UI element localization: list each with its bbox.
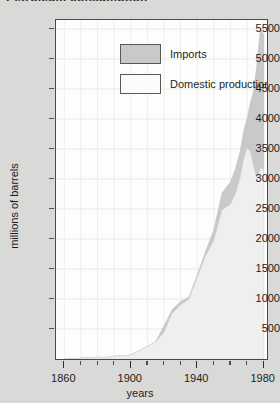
x-tick-label: 1980 [250,372,274,384]
x-tick-mark-minor [113,361,114,365]
y-tick-mark [49,28,54,29]
y-tick-label: 3000 [230,172,280,184]
x-tick-mark-minor [246,361,247,365]
x-tick-mark [196,361,197,368]
y-tick-mark [49,58,54,59]
y-tick-label: 2500 [230,202,280,214]
imports-swatch [120,44,161,64]
y-tick-mark [49,88,54,89]
chart-title: Petroleum consumption [6,0,148,1]
y-tick-label: 2000 [230,232,280,244]
x-tick-mark-minor [163,361,164,365]
x-tick-mark-minor [97,361,98,365]
domestic-swatch [120,74,161,94]
y-tick-label: 4000 [230,112,280,124]
y-tick-label: 3500 [230,142,280,154]
x-axis-title: years [0,387,280,399]
plot-area: Imports Domestic production [55,19,268,360]
x-tick-mark-minor [80,361,81,365]
y-tick-mark [49,238,54,239]
y-tick-mark [49,208,54,209]
y-tick-label: 4500 [230,82,280,94]
y-tick-label: 5000 [230,52,280,64]
y-tick-label: 1000 [230,292,280,304]
x-tick-mark-minor [180,361,181,365]
x-tick-label: 1940 [184,372,208,384]
chart-figure: Petroleum consumption Imports Domestic p… [0,0,280,403]
y-tick-label: 5500 [230,22,280,34]
x-tick-label: 1900 [118,372,142,384]
y-tick-mark [49,118,54,119]
x-tick-mark-minor [213,361,214,365]
y-tick-mark [49,298,54,299]
y-tick-mark [49,178,54,179]
x-tick-mark [263,361,264,368]
y-tick-label: 1500 [230,262,280,274]
y-tick-label: 500 [230,322,280,334]
y-tick-mark [49,268,54,269]
x-tick-mark [63,361,64,368]
y-tick-mark [49,148,54,149]
legend-label-imports: Imports [170,48,207,60]
x-tick-mark [130,361,131,368]
x-tick-label: 1860 [51,372,75,384]
x-tick-mark-minor [229,361,230,365]
x-tick-mark-minor [146,361,147,365]
y-axis-title: millions of barrels [8,146,20,266]
y-tick-mark [49,328,54,329]
